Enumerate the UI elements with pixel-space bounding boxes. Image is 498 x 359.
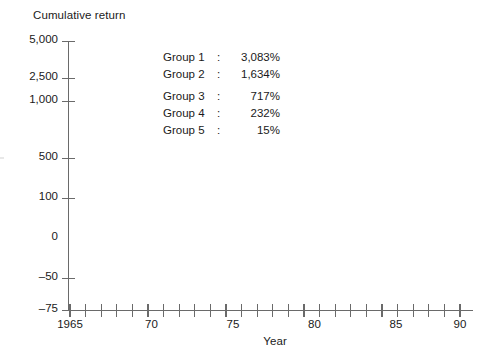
legend-series-value: 717% bbox=[222, 88, 280, 105]
y-tick-label: 5,000 bbox=[0, 33, 58, 45]
legend-series-name: Group 1 bbox=[163, 49, 217, 66]
y-tick-mark bbox=[62, 198, 75, 199]
x-tick-mark bbox=[194, 304, 195, 317]
x-tick-mark bbox=[459, 304, 460, 317]
y-tick-label: –75 bbox=[0, 302, 58, 314]
x-tick-mark bbox=[444, 304, 445, 317]
legend-row: Group 3:717% bbox=[163, 88, 280, 105]
x-tick-label: 75 bbox=[227, 318, 240, 330]
x-tick-mark bbox=[335, 304, 336, 317]
y-tick-label: –50 bbox=[0, 270, 58, 282]
y-tick-label: 0 bbox=[0, 230, 58, 242]
y-tick-label-wrap: –50 bbox=[0, 270, 58, 284]
y-tick-mark bbox=[62, 78, 75, 79]
y-tick-label-wrap: 2,500 bbox=[0, 70, 58, 84]
y-axis-title: Cumulative return bbox=[33, 9, 125, 21]
x-tick-mark bbox=[350, 304, 351, 317]
x-tick-mark bbox=[179, 304, 180, 317]
x-tick-mark bbox=[428, 304, 429, 317]
x-tick-label: 80 bbox=[308, 318, 321, 330]
x-tick-mark bbox=[257, 304, 258, 317]
x-tick-mark bbox=[116, 304, 117, 317]
y-tick-label-wrap: 1,000 bbox=[0, 93, 58, 107]
legend-row: Group 2:1,634% bbox=[163, 66, 280, 83]
y-tick-label: 1,000 bbox=[0, 93, 58, 105]
legend-series-name: Group 2 bbox=[163, 66, 217, 83]
y-tick-label-wrap: 5,000 bbox=[0, 33, 58, 47]
x-tick-mark bbox=[241, 304, 242, 317]
x-tick-mark bbox=[132, 304, 133, 317]
x-tick-mark bbox=[303, 304, 304, 317]
x-tick-mark bbox=[163, 304, 164, 317]
x-tick-mark bbox=[397, 304, 398, 317]
y-tick-label: 100 bbox=[0, 190, 58, 202]
x-tick-label: 70 bbox=[145, 318, 158, 330]
legend-series-name: Group 5 bbox=[163, 122, 217, 139]
legend-series-value: 232% bbox=[222, 105, 280, 122]
x-tick-label: 1965 bbox=[57, 318, 83, 330]
legend-series-value: 3,083% bbox=[222, 49, 280, 66]
y-tick-mark bbox=[62, 101, 75, 102]
legend-row: Group 5:15% bbox=[163, 122, 280, 139]
legend-series-name: Group 4 bbox=[163, 105, 217, 122]
x-tick-mark bbox=[101, 304, 102, 317]
y-tick-label-wrap: 100 bbox=[0, 190, 58, 204]
scan-artifact bbox=[0, 157, 4, 159]
x-tick-mark bbox=[147, 304, 148, 317]
x-tick-mark bbox=[288, 304, 289, 317]
y-tick-label-wrap: –75 bbox=[0, 302, 58, 316]
legend-row: Group 4:232% bbox=[163, 105, 280, 122]
x-tick-mark bbox=[85, 304, 86, 317]
y-axis-line bbox=[68, 41, 69, 311]
x-tick-mark bbox=[272, 304, 273, 317]
y-tick-label: 500 bbox=[0, 150, 58, 162]
x-tick-label: 90 bbox=[454, 318, 467, 330]
x-tick-mark bbox=[69, 304, 70, 317]
y-tick-label-wrap: 0 bbox=[0, 230, 58, 244]
x-tick-mark bbox=[210, 304, 211, 317]
legend-row: Group 1:3,083% bbox=[163, 49, 280, 66]
x-tick-mark bbox=[366, 304, 367, 317]
x-tick-mark bbox=[381, 304, 382, 317]
y-tick-mark bbox=[62, 278, 75, 279]
x-tick-mark bbox=[413, 304, 414, 317]
legend-series-value: 1,634% bbox=[222, 66, 280, 83]
legend-series-value: 15% bbox=[222, 122, 280, 139]
x-axis-title: Year bbox=[0, 335, 498, 347]
x-tick-mark bbox=[225, 304, 226, 317]
legend-annotations: Group 1:3,083%Group 2:1,634%Group 3:717%… bbox=[163, 49, 280, 139]
y-tick-label: 2,500 bbox=[0, 70, 58, 82]
x-tick-mark bbox=[319, 304, 320, 317]
legend-series-name: Group 3 bbox=[163, 88, 217, 105]
y-tick-label-wrap: 500 bbox=[0, 150, 58, 164]
y-tick-mark bbox=[62, 158, 75, 159]
chart-figure: Cumulative return 5,0002,5001,0005001000… bbox=[0, 0, 498, 359]
x-tick-label: 85 bbox=[390, 318, 403, 330]
y-tick-mark bbox=[62, 41, 75, 42]
